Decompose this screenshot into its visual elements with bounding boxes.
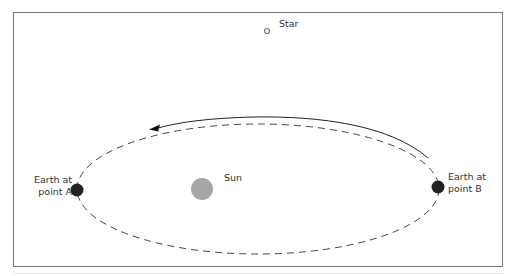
earth-a-label: Earth at point A — [34, 174, 72, 198]
earth-b-icon — [432, 181, 445, 194]
earth-b-label-line2: point B — [448, 183, 486, 195]
sun-label: Sun — [224, 172, 242, 184]
earth-b-label-line1: Earth at — [448, 171, 486, 183]
sun-icon — [191, 178, 213, 200]
orbit-ellipse — [77, 124, 439, 254]
bottom-divider — [13, 273, 505, 274]
earth-a-label-line2: point A — [34, 186, 72, 198]
orbit-direction-arrow — [158, 117, 428, 158]
earth-b-label: Earth at point B — [448, 171, 486, 195]
earth-a-label-line1: Earth at — [34, 174, 72, 186]
arrowhead-icon — [149, 125, 160, 132]
earth-a-icon — [71, 184, 84, 197]
orbit-diagram — [0, 0, 513, 276]
star-label: Star — [279, 18, 298, 30]
star-icon — [265, 29, 270, 34]
